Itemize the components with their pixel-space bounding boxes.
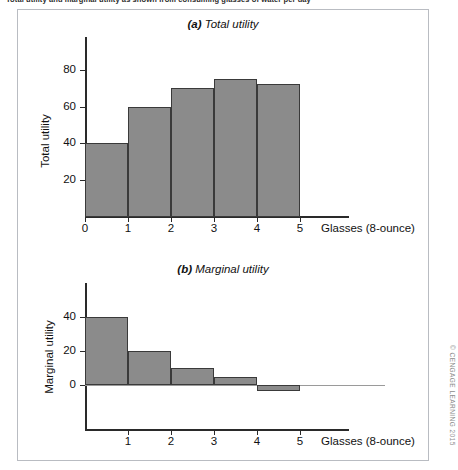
- y-tick-b-0: [80, 385, 85, 386]
- bar-b-1: [85, 317, 128, 385]
- zero-line-b: [85, 385, 385, 386]
- x-ticklabel-a-3: 3: [200, 222, 228, 234]
- bar-a-4: [214, 79, 257, 217]
- y-axis-title-b: Marginal utility: [43, 307, 55, 407]
- y-tick-a-80: [80, 70, 85, 71]
- plot-area-a: 20 40 60 80 Total utility 0 1 2 3: [18, 10, 428, 235]
- bar-b-2: [128, 351, 171, 385]
- x-ticklabel-a-0: 0: [71, 222, 99, 234]
- x-axis-title-b: Glasses (8-ounce): [321, 435, 415, 447]
- figure-caption-strip: Total utility and marginal utility as sh…: [6, 0, 436, 7]
- figure-caption: Total utility and marginal utility as sh…: [6, 0, 311, 4]
- plot-area-b: 0 20 40 Marginal utility 1 2 3 4 5: [18, 255, 428, 460]
- bar-b-4: [214, 377, 257, 385]
- panel-total-utility: (a) Total utility 20 40 60 80 Total util…: [18, 10, 428, 235]
- x-ticklabel-a-5: 5: [286, 222, 314, 234]
- x-ticklabel-a-4: 4: [243, 222, 271, 234]
- panel-marginal-utility: (b) Marginal utility 0 20 40 Marginal ut…: [18, 255, 428, 460]
- y-tick-a-60: [80, 107, 85, 108]
- x-ticklabel-b-1: 1: [114, 435, 142, 447]
- bar-b-5: [257, 385, 300, 391]
- figure-frame: (a) Total utility 20 40 60 80 Total util…: [17, 9, 429, 461]
- copyright-notice: © CENGAGE LEARNING 2015: [336, 345, 456, 355]
- bar-a-2: [128, 107, 171, 217]
- x-ticklabel-a-2: 2: [157, 222, 185, 234]
- bar-b-3: [171, 368, 214, 385]
- bar-a-1: [85, 143, 128, 217]
- x-ticklabel-b-5: 5: [286, 435, 314, 447]
- y-ticklabel-a-80: 80: [40, 63, 76, 75]
- x-ticklabel-b-4: 4: [243, 435, 271, 447]
- x-axis-b: [85, 429, 349, 431]
- y-axis-title-a: Total utility: [39, 101, 51, 181]
- bar-a-5: [257, 84, 300, 217]
- x-ticklabel-b-3: 3: [200, 435, 228, 447]
- bar-a-3: [171, 88, 214, 217]
- x-ticklabel-a-1: 1: [114, 222, 142, 234]
- x-axis-title-a: Glasses (8-ounce): [321, 222, 415, 234]
- x-ticklabel-b-2: 2: [157, 435, 185, 447]
